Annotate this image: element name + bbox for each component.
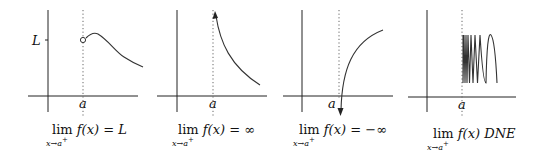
lim-text: lim — [52, 122, 73, 137]
lim-text: lim — [178, 122, 199, 137]
caption-expression: f(x) = −∞ — [324, 122, 387, 137]
lim-subscript: x→a+ — [46, 136, 68, 148]
caption-expression: f(x) = L — [77, 122, 127, 137]
open-circle — [80, 37, 85, 42]
panel-negative-infinite-limit: a — [283, 10, 393, 116]
function-curve — [86, 33, 143, 67]
label-a: a — [209, 96, 217, 111]
function-curve — [341, 30, 383, 110]
arrow-up-icon — [213, 11, 219, 19]
lim-text: lim — [433, 126, 454, 141]
label-L: L — [31, 33, 41, 48]
oscillating-curve — [463, 35, 497, 83]
caption-dne-limit: limx→a+ f(x) DNE — [433, 126, 516, 141]
label-a: a — [328, 96, 336, 111]
lim-text: lim — [299, 122, 320, 137]
lim-subscript: x→a+ — [293, 136, 315, 148]
panel-finite-limit: L a — [28, 10, 143, 118]
caption-expression: f(x) = ∞ — [203, 122, 255, 137]
function-curve — [216, 16, 260, 85]
arrow-down-icon — [338, 108, 344, 116]
label-a: a — [458, 97, 466, 112]
label-a: a — [79, 96, 87, 111]
lim-subscript: x→a+ — [427, 140, 449, 152]
caption-expression: f(x) DNE — [458, 126, 516, 141]
lim-subscript: x→a+ — [172, 136, 194, 148]
caption-infinite-limit: limx→a+ f(x) = ∞ — [178, 122, 255, 137]
panel-dne-limit: a — [408, 10, 516, 118]
caption-finite-limit: limx→a+ f(x) = L — [52, 122, 127, 137]
caption-negative-infinite-limit: limx→a+ f(x) = −∞ — [299, 122, 387, 137]
panel-infinite-limit: a — [157, 10, 267, 118]
